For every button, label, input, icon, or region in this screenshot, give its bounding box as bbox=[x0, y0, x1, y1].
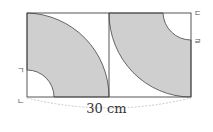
point-label-a: ㄱ bbox=[17, 64, 24, 75]
width-measurement: 30 cm bbox=[0, 101, 213, 116]
left-shaded-ring bbox=[27, 13, 109, 97]
right-shaded-ring bbox=[109, 13, 191, 97]
point-label-d: ㄹ bbox=[194, 35, 201, 46]
point-label-c: ㄷ bbox=[194, 7, 201, 18]
